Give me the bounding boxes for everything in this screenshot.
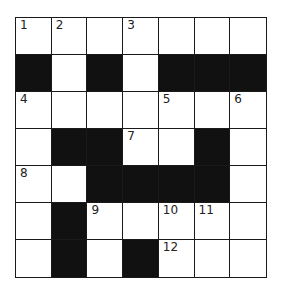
crossword-cell[interactable] [159, 129, 195, 166]
crossword-cell[interactable] [230, 129, 266, 166]
clue-number: 6 [234, 93, 242, 105]
clue-number: 2 [56, 19, 64, 31]
crossword-cell[interactable]: 6 [230, 92, 266, 129]
crossword-cell[interactable]: 9 [87, 203, 123, 240]
crossword-cell[interactable] [195, 92, 231, 129]
black-square [52, 203, 88, 240]
crossword-cell[interactable]: 12 [159, 240, 195, 277]
clue-number: 8 [20, 167, 28, 179]
black-square [230, 55, 266, 92]
crossword-grid: 123456789101112 [15, 17, 267, 278]
black-square [52, 240, 88, 277]
black-square [159, 55, 195, 92]
clue-number: 12 [163, 241, 178, 253]
black-square [195, 166, 231, 203]
crossword-cell[interactable] [52, 92, 88, 129]
black-square [87, 55, 123, 92]
crossword-cell[interactable] [195, 18, 231, 55]
crossword-cell[interactable]: 1 [16, 18, 52, 55]
black-square [195, 55, 231, 92]
crossword-cell[interactable] [230, 240, 266, 277]
black-square [52, 129, 88, 166]
crossword-cell[interactable] [87, 92, 123, 129]
crossword-cell[interactable]: 2 [52, 18, 88, 55]
crossword-cell[interactable] [230, 203, 266, 240]
clue-number: 11 [199, 204, 214, 216]
crossword-cell[interactable] [159, 18, 195, 55]
crossword-cell[interactable] [16, 240, 52, 277]
crossword-cell[interactable] [16, 203, 52, 240]
black-square [159, 166, 195, 203]
black-square [123, 240, 159, 277]
crossword-cell[interactable]: 5 [159, 92, 195, 129]
clue-number: 5 [163, 93, 171, 105]
crossword-cell[interactable] [16, 129, 52, 166]
clue-number: 9 [91, 204, 99, 216]
black-square [16, 55, 52, 92]
crossword-cell[interactable] [123, 203, 159, 240]
clue-number: 3 [127, 19, 135, 31]
clue-number: 4 [20, 93, 28, 105]
crossword-cell[interactable] [195, 240, 231, 277]
black-square [123, 166, 159, 203]
clue-number: 10 [163, 204, 178, 216]
clue-number: 7 [127, 130, 135, 142]
crossword-cell[interactable]: 11 [195, 203, 231, 240]
black-square [87, 166, 123, 203]
crossword-cell[interactable] [123, 92, 159, 129]
crossword-cell[interactable]: 7 [123, 129, 159, 166]
crossword-cell[interactable]: 3 [123, 18, 159, 55]
crossword-cell[interactable]: 10 [159, 203, 195, 240]
crossword-cell[interactable] [52, 55, 88, 92]
crossword-cell[interactable] [87, 18, 123, 55]
crossword-cell[interactable] [87, 240, 123, 277]
crossword-cell[interactable]: 8 [16, 166, 52, 203]
crossword-cell[interactable] [230, 18, 266, 55]
crossword-cell[interactable] [230, 166, 266, 203]
crossword-cell[interactable] [123, 55, 159, 92]
black-square [195, 129, 231, 166]
crossword-cell[interactable] [52, 166, 88, 203]
clue-number: 1 [20, 19, 28, 31]
black-square [87, 129, 123, 166]
crossword-cell[interactable]: 4 [16, 92, 52, 129]
